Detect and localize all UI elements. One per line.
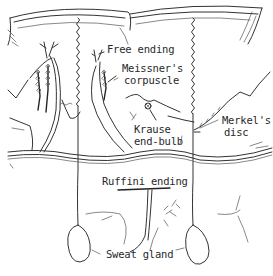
deep-nerves: [86, 196, 248, 250]
label-krause-line1: Krause: [134, 124, 171, 135]
label-ruffini-ending: Ruffini ending: [102, 176, 188, 187]
epidermis-layer: [8, 6, 262, 46]
skin-receptor-diagram: Free ending Meissner's corpuscle Krause …: [0, 0, 273, 276]
label-meissner-line1: Meissner's: [122, 63, 183, 74]
label-merkel-line1: Merkel's: [222, 115, 271, 126]
leader-lines: [92, 78, 218, 254]
sweat-duct-right: [186, 18, 209, 264]
dermis-boundary: [8, 148, 272, 168]
label-meissner-line2: corpuscle: [124, 75, 179, 86]
label-merkel-line2: disc: [224, 127, 249, 138]
label-sweat-gland: Sweat gland: [106, 249, 173, 260]
label-krause-line2: end-bulb: [134, 136, 183, 147]
label-free-ending: Free ending: [107, 44, 174, 55]
left-papilla: [8, 42, 80, 152]
ruffini-ending: [118, 188, 170, 252]
sweat-duct-left: [68, 18, 91, 262]
